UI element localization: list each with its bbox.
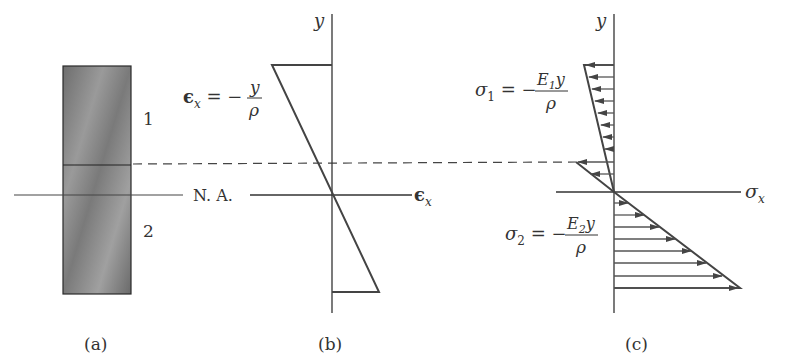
panel-c-stress-diagram: y σx σ1 = − E1y ρ σ2 = − E2y ρ (c) xyxy=(475,10,765,354)
x-axis-label-b: ϵx xyxy=(414,184,432,209)
svg-text:ρ: ρ xyxy=(575,237,586,257)
neutral-axis-label: N. A. xyxy=(193,186,233,205)
region-label-1: 1 xyxy=(143,109,154,129)
caption-a: (a) xyxy=(84,334,107,354)
interface-dashed-line xyxy=(133,162,576,164)
composite-beam-diagram: 1 2 (a) N. A. y ϵx ϵx = − y ρ (b) xyxy=(0,0,787,362)
svg-text:y: y xyxy=(249,77,260,97)
panel-b-strain-diagram: y ϵx ϵx = − y ρ (b) xyxy=(183,10,432,354)
stress-formula-2: σ2 = − E2y ρ xyxy=(505,214,598,257)
panel-a-cross-section: 1 2 (a) xyxy=(14,66,183,354)
svg-text:σ1 = −: σ1 = − xyxy=(475,79,537,104)
region-label-2: 2 xyxy=(143,221,154,241)
svg-text:E1y: E1y xyxy=(536,70,566,92)
y-axis-label-b: y xyxy=(313,10,325,31)
svg-text:E2y: E2y xyxy=(566,214,596,236)
caption-b: (b) xyxy=(318,334,342,354)
svg-text:ϵx = −: ϵx = − xyxy=(183,86,242,111)
caption-c: (c) xyxy=(625,334,648,354)
stress-profile-material-2 xyxy=(576,162,740,288)
x-axis-label-c: σx xyxy=(745,180,765,206)
stress-formula-1: σ1 = − E1y ρ xyxy=(475,70,568,113)
svg-text:σ2 = −: σ2 = − xyxy=(505,223,567,248)
y-axis-label-c: y xyxy=(595,10,607,31)
strain-profile xyxy=(272,65,379,292)
composite-block xyxy=(63,66,131,294)
svg-text:ρ: ρ xyxy=(248,100,259,120)
tensile-stress-arrows xyxy=(614,203,738,288)
svg-text:ρ: ρ xyxy=(545,93,556,113)
strain-formula: ϵx = − y ρ xyxy=(183,77,262,120)
